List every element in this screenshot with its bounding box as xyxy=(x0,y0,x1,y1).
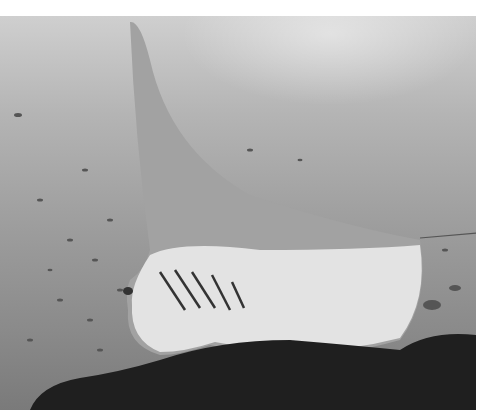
scene-illustration xyxy=(0,16,476,410)
manta-tail xyxy=(420,233,476,238)
manta-eye xyxy=(123,287,133,295)
manta-ray-photo xyxy=(0,16,476,410)
manta-belly xyxy=(132,245,422,352)
coral-reef xyxy=(30,334,476,410)
